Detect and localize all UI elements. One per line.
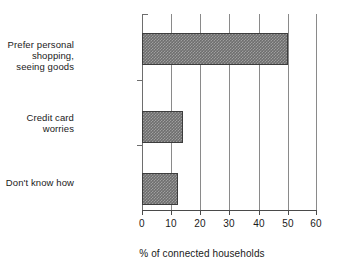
x-axis-tick-0 — [142, 210, 143, 215]
x-axis-tick-10 — [171, 210, 172, 215]
category-label-2: Don't know how — [6, 177, 74, 188]
bar-prefer-personal-shopping — [142, 33, 288, 65]
x-axis-tick-60 — [316, 210, 317, 215]
x-axis-label-20: 20 — [194, 218, 206, 229]
bar-chart: Prefer personal shopping, seeing goods C… — [0, 0, 352, 271]
gridline-60 — [316, 14, 317, 210]
gridline-50 — [288, 14, 289, 210]
x-axis-label-30: 30 — [223, 218, 235, 229]
x-axis-label-50: 50 — [282, 218, 294, 229]
x-axis-label-0: 0 — [139, 218, 145, 229]
x-axis-tick-30 — [229, 210, 230, 215]
x-axis-label-60: 60 — [310, 218, 322, 229]
category-label-1: Credit card worries — [0, 112, 74, 134]
y-axis-tick-0 — [137, 80, 142, 81]
x-axis-label-10: 10 — [165, 218, 177, 229]
x-axis-tick-20 — [200, 210, 201, 215]
category-label-0: Prefer personal shopping, seeing goods — [0, 39, 74, 72]
y-axis-tick-1 — [137, 145, 142, 146]
plot-area — [142, 14, 317, 210]
bar-credit-card-worries — [142, 111, 183, 143]
x-axis-title: % of connected households — [0, 248, 352, 259]
x-axis-label-40: 40 — [253, 218, 265, 229]
bar-dont-know-how — [142, 173, 178, 205]
x-axis-tick-40 — [259, 210, 260, 215]
x-axis-tick-50 — [288, 210, 289, 215]
